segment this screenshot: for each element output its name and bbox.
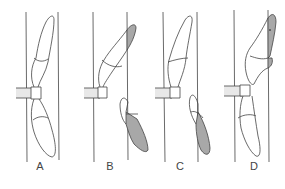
upper-segment <box>32 16 54 87</box>
right-wall <box>58 12 59 160</box>
lower-segment <box>31 99 55 157</box>
panel-b <box>84 12 148 162</box>
pin-icon <box>31 87 41 99</box>
left-wall <box>26 12 27 162</box>
panel-label-d: D <box>244 160 264 172</box>
left-wall <box>163 12 165 162</box>
panel-c <box>155 12 210 162</box>
panel-label-b: B <box>100 160 120 172</box>
panel-d <box>224 10 276 162</box>
panel-label-a: A <box>30 160 50 172</box>
panel-a <box>16 12 59 162</box>
panel-label-c: C <box>170 160 190 172</box>
left-wall <box>93 12 94 162</box>
